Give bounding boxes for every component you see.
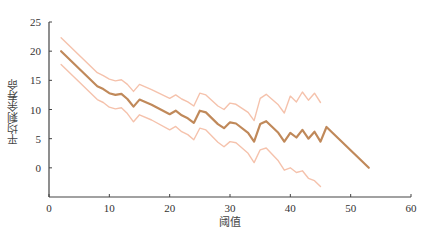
x-tick-label: 0 — [46, 202, 52, 214]
chart-container: 05101520250102030405060 平均剩余寿命 阈值 — [0, 0, 431, 241]
y-tick-label: 0 — [36, 162, 42, 174]
x-tick-label: 40 — [285, 202, 297, 214]
y-tick-label: 20 — [30, 45, 42, 57]
x-tick-label: 10 — [104, 202, 116, 214]
x-axis-label: 阈值 — [200, 213, 260, 229]
y-axis-label: 平均剩余寿命 — [6, 62, 24, 162]
line-chart: 05101520250102030405060 — [0, 0, 431, 241]
x-tick-label: 50 — [345, 202, 357, 214]
series-line-upper — [61, 38, 320, 121]
x-tick-label: 20 — [164, 202, 176, 214]
y-tick-label: 10 — [30, 104, 42, 116]
series-line-mean — [61, 51, 369, 168]
y-tick-label: 15 — [30, 74, 42, 86]
y-tick-label: 25 — [30, 16, 42, 28]
series-line-lower — [61, 65, 320, 187]
y-tick-label: 5 — [36, 133, 42, 145]
x-tick-label: 60 — [406, 202, 418, 214]
